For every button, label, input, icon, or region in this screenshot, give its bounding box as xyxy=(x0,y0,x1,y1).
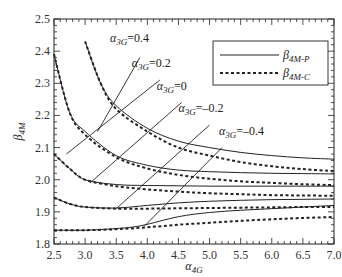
x-tick-label: 5.5 xyxy=(233,248,248,262)
x-tick-label: 3.0 xyxy=(78,248,93,262)
series-line-5 xyxy=(54,154,334,196)
series-line-6 xyxy=(54,197,334,208)
annotation-label: α3G=–0.2 xyxy=(178,101,223,117)
y-tick-label: 2.1 xyxy=(35,141,50,155)
y-axis-label: β4M xyxy=(11,122,27,141)
legend-box xyxy=(213,41,328,85)
y-tick-label: 1.8 xyxy=(35,237,50,251)
annotation-leader-line xyxy=(144,148,222,227)
x-tick-label: 4.5 xyxy=(171,248,186,262)
y-tick-label: 2.5 xyxy=(35,12,50,26)
annotation-label: α3G=0.2 xyxy=(132,56,171,72)
x-tick-label: 3.5 xyxy=(109,248,124,262)
y-tick-label: 2.0 xyxy=(35,173,50,187)
x-tick-label: 7.0 xyxy=(327,248,342,262)
y-tick-label: 1.9 xyxy=(35,205,50,219)
annotation-label: α3G=–0.4 xyxy=(219,124,264,140)
annotation-leader-line xyxy=(116,125,209,209)
chart: α3G=0.4α3G=0.2α3G=0α3G=–0.2α3G=–0.4 2.53… xyxy=(0,0,342,277)
y-tick-label: 2.2 xyxy=(35,108,50,122)
annotation-label: α3G=0.4 xyxy=(110,31,149,47)
series-line-9 xyxy=(54,217,334,230)
x-tick-label: 6.5 xyxy=(295,248,310,262)
annotation-label: α3G=0 xyxy=(157,79,187,95)
y-tick-label: 2.3 xyxy=(35,76,50,90)
x-tick-label: 4.0 xyxy=(140,248,155,262)
x-tick-label: 6.0 xyxy=(264,248,279,262)
annotation-leader-line xyxy=(66,80,159,154)
legend: β4M-Pβ4M-C xyxy=(213,41,328,85)
x-axis-label: α4G xyxy=(185,259,203,275)
annotation-leader-line xyxy=(90,103,181,183)
x-tick-label: 5.0 xyxy=(202,248,217,262)
y-tick-label: 2.4 xyxy=(35,44,50,58)
series-line-4 xyxy=(54,154,334,186)
